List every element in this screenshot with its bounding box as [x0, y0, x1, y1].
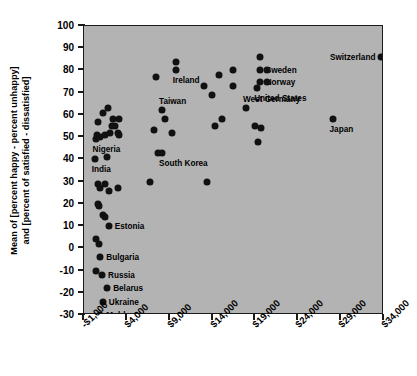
y-axis-tick-label: 0	[46, 242, 74, 253]
data-point-label: Ireland	[173, 76, 200, 85]
data-point	[329, 116, 336, 123]
y-axis-tick-label: 100	[46, 20, 74, 31]
data-point	[212, 123, 219, 130]
data-point	[256, 67, 263, 74]
y-axis-tick-label: -30	[46, 309, 74, 320]
data-point-label: Japan	[330, 125, 354, 134]
data-point	[204, 178, 211, 185]
data-point	[254, 85, 261, 92]
data-point	[105, 223, 112, 230]
data-point	[264, 67, 271, 74]
data-point-label: Belarus	[113, 284, 143, 293]
data-point	[115, 131, 122, 138]
data-point	[172, 58, 179, 65]
data-point	[95, 203, 102, 210]
data-point	[169, 129, 176, 136]
data-point	[95, 240, 102, 247]
data-point	[99, 109, 106, 116]
data-point	[94, 118, 101, 125]
data-point	[215, 71, 222, 78]
data-point	[159, 107, 166, 114]
y-axis-tick-label: 60	[46, 108, 74, 119]
data-point	[172, 67, 179, 74]
data-point	[243, 105, 250, 112]
y-axis-tick-label: 20	[46, 197, 74, 208]
data-point	[115, 185, 122, 192]
y-axis-tick-label: 30	[46, 175, 74, 186]
data-point	[151, 127, 158, 134]
data-point	[107, 129, 114, 136]
data-point	[378, 54, 383, 61]
data-point	[257, 125, 264, 132]
data-point	[208, 91, 215, 98]
data-point-label: South Korea	[159, 158, 208, 167]
data-point-label: Switzerland	[330, 53, 376, 62]
scatter-plot-figure: Mean of [percent happy - percent unhappy…	[0, 0, 417, 376]
data-point	[97, 254, 104, 261]
data-point-label: Ukraine	[109, 297, 139, 306]
data-point	[97, 185, 104, 192]
data-point	[147, 178, 154, 185]
y-axis-tick-label: 10	[46, 220, 74, 231]
y-axis-tick-label: -10	[46, 264, 74, 275]
data-point	[91, 156, 98, 163]
data-point	[97, 134, 104, 141]
data-point-label: Estonia	[115, 222, 145, 231]
data-point-label: West Germany	[243, 95, 300, 104]
y-axis-tick-label: 40	[46, 153, 74, 164]
data-point	[255, 138, 262, 145]
data-point	[99, 271, 106, 278]
data-point	[104, 285, 111, 292]
data-point-label: Russia	[108, 270, 135, 279]
data-point-label: Taiwan	[159, 97, 186, 106]
data-point	[104, 154, 111, 161]
data-point	[159, 149, 166, 156]
data-point	[230, 83, 237, 90]
data-point	[219, 116, 226, 123]
data-point	[153, 74, 160, 81]
data-point-label: Bulgaria	[106, 253, 139, 262]
data-point	[161, 116, 168, 123]
y-axis-tick-label: 80	[46, 64, 74, 75]
data-point	[101, 214, 108, 221]
data-point	[256, 54, 263, 61]
data-point-label: India	[92, 165, 111, 174]
y-axis-tick-label: 70	[46, 86, 74, 97]
data-point	[105, 187, 112, 194]
y-axis-label-line2: and [percent of satisfied - dissatisfied…	[20, 66, 32, 254]
data-point	[230, 67, 237, 74]
y-axis-label-line1: Mean of [percent happy - percent unhappy…	[9, 66, 21, 254]
data-point-label: Nigeria	[93, 145, 121, 154]
y-axis-tick-label: 50	[46, 131, 74, 142]
y-axis-label: Mean of [percent happy - percent unhappy…	[0, 0, 40, 320]
y-axis-tick-label: 90	[46, 42, 74, 53]
data-point	[201, 83, 208, 90]
data-point	[264, 78, 271, 85]
y-axis-tick-label: -20	[46, 286, 74, 297]
plot-area: NigeriaIndiaEstoniaBulgariaRussiaBelarus…	[83, 25, 383, 314]
data-point	[116, 116, 123, 123]
